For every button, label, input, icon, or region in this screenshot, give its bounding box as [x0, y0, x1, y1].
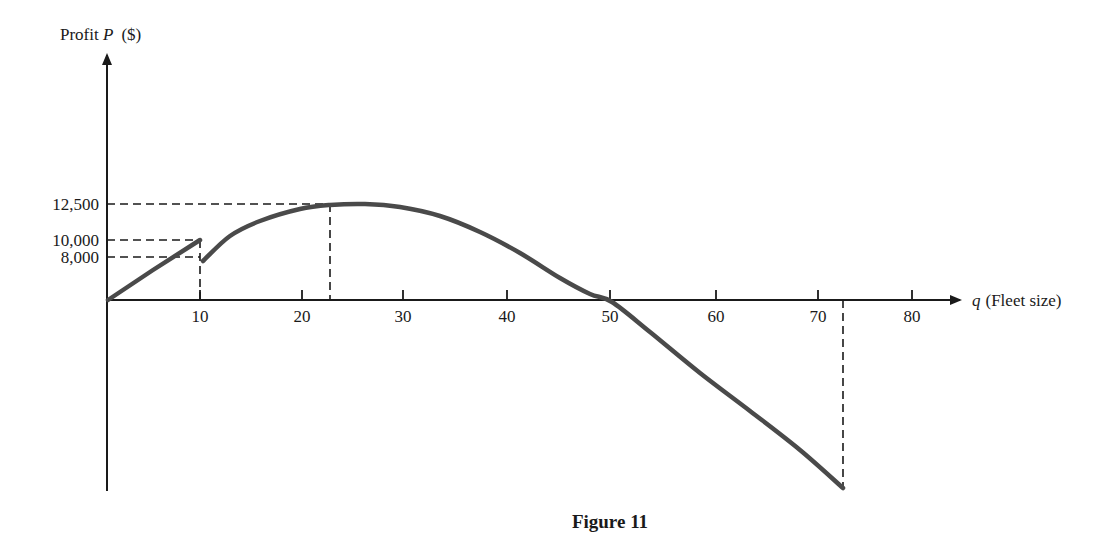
- x-tick-label: 70: [810, 307, 827, 326]
- y-tick-label: 10,000: [52, 231, 99, 250]
- y-tick-label: 12,500: [52, 195, 99, 214]
- figure-caption: Figure 11: [572, 511, 648, 532]
- profit-chart: Profit P($) q(Fleet size) 10203040506070…: [0, 0, 1120, 534]
- y-axis-label: Profit P($): [60, 25, 141, 44]
- x-tick-label: 80: [904, 307, 921, 326]
- x-tick-label: 40: [499, 307, 516, 326]
- x-tick-label: 10: [192, 307, 209, 326]
- x-axis-label: q(Fleet size): [972, 291, 1062, 310]
- x-tick-label: 30: [395, 307, 412, 326]
- x-tick-label: 50: [602, 307, 619, 326]
- x-tick-label: 20: [294, 307, 311, 326]
- x-ticks: 1020304050607080: [192, 290, 921, 326]
- profit-curve-segment-1: [108, 240, 200, 300]
- profit-curve-segment-2: [203, 204, 843, 488]
- y-tick-label: 8,000: [61, 248, 99, 267]
- x-tick-label: 60: [708, 307, 725, 326]
- y-ticks: 8,00010,00012,500: [52, 195, 99, 267]
